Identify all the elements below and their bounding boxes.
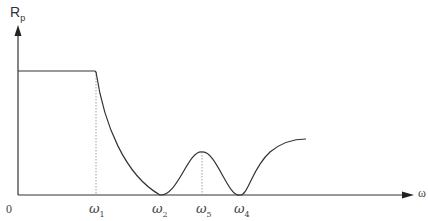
- tick-label-omega1: ω1: [89, 201, 105, 219]
- y-axis-arrow-icon: [15, 25, 22, 36]
- tick-label-omega4: ω4: [234, 201, 250, 219]
- x-axis-label: ω: [418, 186, 426, 201]
- tick-label-omega2: ω2: [152, 201, 168, 219]
- x-axis-arrow-icon: [402, 192, 414, 199]
- origin-label: 0: [6, 202, 12, 217]
- y-axis-label: Rp: [10, 4, 25, 23]
- rp-omega-plot: [0, 0, 428, 221]
- tick-label-omega5: ω5: [196, 201, 212, 219]
- rp-curve: [18, 71, 306, 195]
